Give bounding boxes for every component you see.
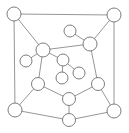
- graph-node-n6[interactable]: [20, 55, 32, 67]
- graph-node-n12[interactable]: [63, 93, 76, 106]
- graph-node-n1[interactable]: [7, 7, 21, 21]
- graph-node-n11[interactable]: [92, 78, 105, 91]
- graph-node-n3[interactable]: [36, 43, 50, 57]
- graph-node-n7[interactable]: [57, 54, 69, 66]
- graph-node-n13[interactable]: [63, 114, 76, 127]
- graph-figure: [0, 0, 129, 133]
- graph-canvas: [0, 0, 129, 133]
- graph-node-n15[interactable]: [107, 104, 121, 118]
- graph-node-n8[interactable]: [73, 67, 85, 79]
- graph-edge: [15, 110, 69, 120]
- graph-node-n5[interactable]: [64, 25, 76, 37]
- graph-edge: [14, 14, 114, 15]
- node-layer: [7, 7, 121, 127]
- graph-node-n4[interactable]: [83, 37, 97, 51]
- graph-node-n2[interactable]: [107, 8, 121, 22]
- graph-node-n10[interactable]: [32, 78, 45, 91]
- graph-node-n14[interactable]: [8, 103, 22, 117]
- graph-node-n9[interactable]: [56, 72, 68, 84]
- graph-edge: [14, 14, 15, 110]
